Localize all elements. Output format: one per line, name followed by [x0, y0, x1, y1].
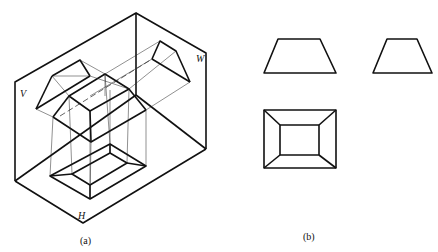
v-plane-projection: [36, 60, 90, 109]
frustum-solid: [53, 74, 146, 142]
w-plane-projection: [152, 41, 190, 82]
caption-b: (b): [303, 231, 315, 243]
w-plane-label: W: [196, 53, 206, 64]
figure-canvas: V W H (a) (b): [0, 0, 438, 252]
side-view-trapezoid: [373, 39, 432, 73]
h-plane-label: H: [77, 210, 86, 221]
front-view-trapezoid: [264, 39, 336, 73]
top-view-nested-rectangles: [264, 110, 336, 168]
caption-a: (a): [80, 235, 91, 247]
v-plane-label: V: [20, 88, 28, 99]
projection-box: [15, 13, 206, 223]
h-plane-projection: [50, 144, 146, 199]
